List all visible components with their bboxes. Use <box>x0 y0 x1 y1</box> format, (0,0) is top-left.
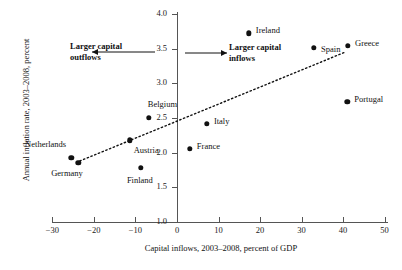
x-tick-label: 50 <box>370 226 400 235</box>
annotation-line-1: Larger capital <box>229 42 281 53</box>
data-point-label: Greece <box>355 39 379 48</box>
data-point-label: Netherlands <box>25 140 66 149</box>
y-tick-label: 3.5 <box>141 44 167 53</box>
y-tick-mark <box>172 187 178 188</box>
y-tick-mark <box>172 118 178 119</box>
data-point[interactable] <box>345 43 350 48</box>
x-tick-mark <box>260 217 261 222</box>
x-tick-mark <box>177 217 178 222</box>
y-tick-mark <box>172 153 178 154</box>
y-tick-label: 4.0 <box>141 9 167 18</box>
y-tick-mark <box>172 222 178 223</box>
data-point[interactable] <box>138 165 143 170</box>
x-tick-mark <box>302 217 303 222</box>
y-tick-label: 1.0 <box>141 217 167 226</box>
y-tick-label: 2.5 <box>141 113 167 122</box>
annotation-text-outflows: Larger capitaloutflows <box>70 41 122 63</box>
x-tick-label: 0 <box>162 226 192 235</box>
data-point[interactable] <box>246 31 251 36</box>
data-point[interactable] <box>311 45 316 50</box>
data-point-label: Germany <box>51 169 83 178</box>
x-tick-label: −20 <box>79 226 109 235</box>
y-tick-mark <box>172 49 178 50</box>
x-tick-label: 20 <box>245 226 275 235</box>
x-tick-label: 30 <box>287 226 317 235</box>
scatter-chart: 1.01.52.02.53.03.54.0 −30−20−10010203040… <box>0 0 402 270</box>
data-point[interactable] <box>75 160 80 165</box>
data-point-label: Italy <box>214 117 230 126</box>
data-point-label: Austria <box>134 146 159 155</box>
x-tick-label: −10 <box>120 226 150 235</box>
x-tick-mark <box>135 217 136 222</box>
x-axis-line <box>52 222 388 223</box>
data-point[interactable] <box>204 121 209 126</box>
data-point-label: Portugal <box>354 95 383 104</box>
y-tick-mark <box>172 14 178 15</box>
x-tick-mark <box>219 217 220 222</box>
x-tick-mark <box>343 217 344 222</box>
data-point-label: Spain <box>321 45 340 54</box>
data-point-label: Ireland <box>256 26 280 35</box>
y-tick-label: 3.0 <box>141 78 167 87</box>
x-tick-label: 40 <box>328 226 358 235</box>
x-tick-mark <box>94 217 95 222</box>
y-tick-mark <box>172 83 178 84</box>
x-tick-label: 10 <box>204 226 234 235</box>
data-point-label: France <box>197 142 220 151</box>
data-point[interactable] <box>187 146 192 151</box>
x-tick-mark <box>52 217 53 222</box>
annotation-line-1: Larger capital <box>70 41 122 52</box>
annotation-line-2: inflows <box>229 53 281 64</box>
data-point[interactable] <box>345 99 350 104</box>
x-tick-mark <box>385 217 386 222</box>
x-axis-title: Capital inflows, 2003–2008, percent of G… <box>101 243 341 253</box>
annotation-line-2: outflows <box>70 52 122 63</box>
data-point-label: Finland <box>127 176 153 185</box>
annotation-text-inflows: Larger capitalinflows <box>229 42 281 64</box>
data-point-label: Belgium <box>148 100 177 109</box>
x-tick-label: −30 <box>37 226 67 235</box>
data-point[interactable] <box>68 155 73 160</box>
data-point[interactable] <box>127 137 132 142</box>
y-axis-title: Annual inflation rate, 2003–2008, percen… <box>21 10 31 210</box>
